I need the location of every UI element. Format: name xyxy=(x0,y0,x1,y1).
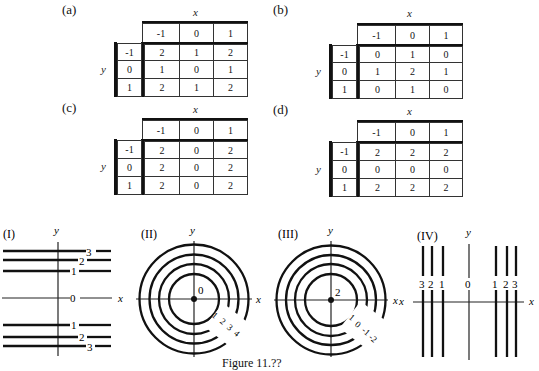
contour-plot-IV: (IV) y x x 0 3 2 1 1 2 3 xyxy=(398,226,534,360)
contour-label: 0 xyxy=(70,292,76,304)
center-point xyxy=(191,296,197,302)
x-axis-label: x xyxy=(117,292,123,304)
contour-label: 2 xyxy=(428,278,434,290)
contour-plot-II: (II) y x 0 1 2 3 4 xyxy=(136,224,261,357)
y-axis-label: y xyxy=(189,224,195,236)
panel-label-II: (II) xyxy=(141,227,157,241)
contour-label: 2 xyxy=(79,255,85,267)
contour-label: 0 xyxy=(198,284,204,296)
contour-label: 3 xyxy=(419,278,425,290)
contour-label: 1 xyxy=(71,265,77,277)
panel-label-I: (I) xyxy=(3,227,15,241)
y-axis-label: y xyxy=(327,224,333,236)
x-axis-label-left: x xyxy=(398,295,404,307)
y-axis-label: y xyxy=(53,224,59,236)
contour-label: 1 xyxy=(439,278,445,290)
y-axis-label: y xyxy=(465,226,471,238)
x-axis-label: x xyxy=(392,294,398,306)
contour-plot-III: (III) y x 2 1 0 -1 -2 xyxy=(274,224,398,357)
contour-label: 1 xyxy=(492,278,498,290)
contour-label: 1 xyxy=(71,319,77,331)
x-axis-label-right: x xyxy=(528,295,534,307)
contour-label: 3 xyxy=(86,246,92,258)
contour-label: 0 xyxy=(465,278,471,290)
contour-label: 3 xyxy=(512,278,518,290)
panel-label-III: (III) xyxy=(278,227,298,241)
contour-plot-I: (I) y x 0 3 2 1 1 2 3 xyxy=(2,224,123,356)
x-axis-label: x xyxy=(255,293,261,305)
center-point xyxy=(328,297,334,303)
contour-label: 2 xyxy=(335,286,341,298)
figure-caption: Figure 11.?? xyxy=(222,356,282,371)
contour-label: 2 xyxy=(79,331,85,343)
contour-label: 2 xyxy=(503,278,509,290)
panel-label-IV: (IV) xyxy=(417,229,438,243)
contour-label: 3 xyxy=(87,341,93,353)
